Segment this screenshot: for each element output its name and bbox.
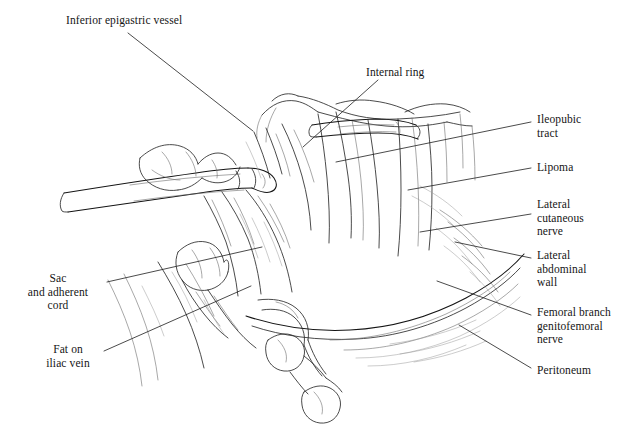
label-internal-ring: Internal ring — [366, 66, 456, 80]
anatomical-figure: .ln{fill:none;stroke:#2a2a2a;stroke-widt… — [0, 0, 625, 438]
label-lateral-abdominal-wall: Lateral abdominal wall — [537, 249, 617, 290]
label-lateral-cutaneous-nerve: Lateral cutaneous nerve — [537, 198, 617, 239]
label-peritoneum: Peritoneum — [537, 364, 617, 378]
label-ileopubic-tract: Ileopubic tract — [537, 113, 617, 140]
label-inferior-epigastric-vessel: Inferior epigastric vessel — [66, 14, 216, 28]
label-femoral-branch-genitofemoral-nerve: Femoral branch genitofemoral nerve — [537, 306, 625, 347]
anatomical-illustration-artwork: .ln{fill:none;stroke:#2a2a2a;stroke-widt… — [0, 0, 625, 438]
label-sac-and-adherent-cord: Sac and adherent cord — [12, 272, 104, 313]
label-fat-on-iliac-vein: Fat on iliac vein — [30, 343, 106, 370]
label-lipoma: Lipoma — [537, 161, 617, 175]
